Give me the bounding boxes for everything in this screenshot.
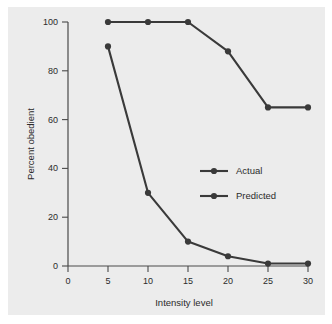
- data-point: [305, 260, 311, 266]
- data-point: [305, 104, 311, 110]
- x-tick-label: 0: [65, 276, 70, 286]
- x-tick-label: 25: [263, 276, 273, 286]
- y-tick-label: 100: [43, 17, 58, 27]
- x-tick-label: 10: [143, 276, 153, 286]
- legend-label: Predicted: [236, 190, 276, 201]
- legend-item-actual: Actual: [200, 165, 262, 176]
- y-axis-title: Percent obedient: [25, 108, 36, 180]
- series-line: [108, 22, 308, 107]
- y-tick-label: 20: [48, 212, 58, 222]
- data-point: [265, 104, 271, 110]
- series-line: [108, 46, 308, 263]
- series-layer: [105, 19, 311, 267]
- data-point: [225, 253, 231, 259]
- data-point: [145, 19, 151, 25]
- data-point: [105, 43, 111, 49]
- data-point: [145, 190, 151, 196]
- y-axis-tick-labels: 0 20 40 60 80 100: [43, 17, 58, 271]
- chart-legend: ActualPredicted: [200, 165, 276, 201]
- chart-figure: 0 20 40 60 80 100 0 5 10 15 20 25 30: [0, 0, 332, 324]
- series-actual: [105, 43, 311, 266]
- y-tick-label: 60: [48, 115, 58, 125]
- legend-swatch-marker: [211, 193, 217, 199]
- y-tick-label: 80: [48, 66, 58, 76]
- data-point: [185, 19, 191, 25]
- x-tick-label: 30: [303, 276, 313, 286]
- x-axis-title: Intensity level: [155, 297, 213, 308]
- x-tick-label: 15: [183, 276, 193, 286]
- legend-label: Actual: [236, 165, 262, 176]
- x-axis-ticks: [68, 266, 308, 272]
- y-tick-label: 0: [53, 261, 58, 271]
- data-point: [265, 260, 271, 266]
- legend-swatch-marker: [211, 168, 217, 174]
- series-predicted: [105, 19, 311, 111]
- line-chart: 0 20 40 60 80 100 0 5 10 15 20 25 30: [0, 0, 332, 324]
- legend-item-predicted: Predicted: [200, 190, 276, 201]
- data-point: [225, 48, 231, 54]
- data-point: [185, 239, 191, 245]
- y-axis-ticks: [62, 22, 68, 266]
- data-point: [105, 19, 111, 25]
- x-tick-label: 5: [105, 276, 110, 286]
- y-tick-label: 40: [48, 163, 58, 173]
- x-axis-tick-labels: 0 5 10 15 20 25 30: [65, 276, 313, 286]
- x-tick-label: 20: [223, 276, 233, 286]
